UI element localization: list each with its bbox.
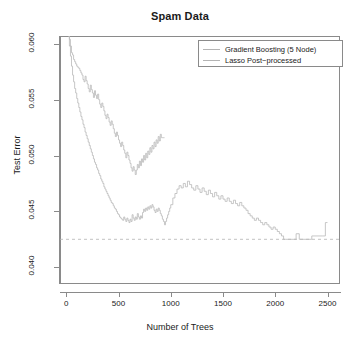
legend-label: Lasso Post−processed (225, 56, 301, 65)
x-tick (66, 292, 67, 297)
x-tick (171, 292, 172, 297)
y-tick-label: 0.050 (27, 137, 36, 171)
legend-box: Gradient Boosting (5 Node) Lasso Post−pr… (198, 40, 343, 67)
legend-line-icon (203, 60, 220, 61)
legend-item: Gradient Boosting (5 Node) (203, 44, 338, 54)
x-tick-label: 2500 (308, 299, 348, 308)
y-tick-label: 0.045 (27, 193, 36, 227)
x-axis-line (60, 292, 341, 293)
y-tick (54, 267, 59, 268)
y-tick (54, 100, 59, 101)
y-tick-label: 0.055 (27, 81, 36, 115)
y-tick-label: 0.040 (27, 249, 36, 283)
plot-canvas (60, 36, 340, 284)
y-axis-line (59, 36, 60, 284)
y-tick (54, 211, 59, 212)
legend-label: Gradient Boosting (5 Node) (225, 45, 316, 54)
x-tick-label: 2000 (255, 299, 295, 308)
x-tick-label: 1000 (151, 299, 191, 308)
y-tick-label: 0.060 (27, 25, 36, 59)
x-tick (328, 292, 329, 297)
x-tick (223, 292, 224, 297)
x-tick (275, 292, 276, 297)
series-line-0 (68, 36, 164, 175)
chart-figure: Spam Data 0.0400.0450.0500.0550.060 Test… (0, 0, 360, 350)
x-axis-title: Number of Trees (0, 322, 360, 332)
y-tick (54, 44, 59, 45)
chart-title: Spam Data (0, 10, 360, 22)
x-tick-label: 500 (99, 299, 139, 308)
x-tick-label: 1500 (203, 299, 243, 308)
y-tick (54, 156, 59, 157)
legend-line-icon (203, 49, 220, 50)
y-axis-title: Test Error (12, 120, 22, 190)
x-tick (119, 292, 120, 297)
legend-item: Lasso Post−processed (203, 55, 338, 65)
x-tick-label: 0 (46, 299, 86, 308)
